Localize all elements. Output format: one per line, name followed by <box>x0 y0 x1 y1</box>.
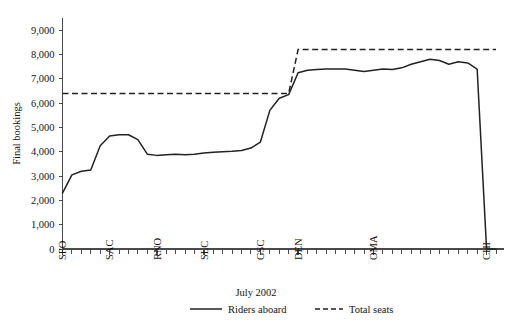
y-tick-label: 8,000 <box>31 49 55 60</box>
x-tick-label: RNO <box>152 237 163 260</box>
y-tick-label: 5,000 <box>31 122 55 133</box>
legend-label-riders-aboard: Riders aboard <box>228 304 287 315</box>
legend-label-total-seats: Total seats <box>349 304 393 315</box>
series-line-riders-aboard <box>63 59 497 249</box>
y-tick-label: 7,000 <box>31 73 55 84</box>
y-axis: 01,0002,0003,0004,0005,0006,0007,0008,00… <box>31 18 63 255</box>
y-tick-label: 6,000 <box>31 98 55 109</box>
x-tick-label: GSC <box>255 240 266 260</box>
y-axis-title: Final bookings <box>11 102 22 165</box>
x-tick-label: DEN <box>293 238 304 260</box>
chart-container: 01,0002,0003,0004,0005,0006,0007,0008,00… <box>0 0 513 328</box>
y-tick-label: 4,000 <box>31 146 55 157</box>
y-tick-label: 3,000 <box>31 171 55 182</box>
x-tick-label: SLC <box>199 241 210 260</box>
y-tick-label: 1,000 <box>31 219 55 230</box>
y-tick-label: 0 <box>49 244 54 255</box>
chart-legend: July 2002Riders aboardTotal seats <box>190 287 393 315</box>
legend-title: July 2002 <box>235 287 276 298</box>
y-tick-label: 9,000 <box>31 25 55 36</box>
final-bookings-line-chart: 01,0002,0003,0004,0005,0006,0007,0008,00… <box>0 0 513 328</box>
series-line-total-seats <box>63 50 497 94</box>
x-tick-label: OMA <box>368 235 379 260</box>
chart-series <box>63 50 497 249</box>
x-axis: SFOSACRNOSLCGSCDENOMACHI <box>57 235 504 260</box>
axis-labels: Final bookings <box>11 102 22 165</box>
x-tick-label: SAC <box>104 240 115 260</box>
y-tick-label: 2,000 <box>31 195 55 206</box>
x-tick-label: SFO <box>57 240 68 260</box>
